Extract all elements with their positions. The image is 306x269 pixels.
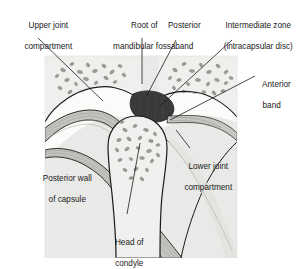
label-posterior-wall-of-capsule: Posterior wall of capsule	[26, 164, 104, 205]
label-anterior-band: Anterior band	[258, 70, 306, 111]
label-head-of-condyle-line1: Head of	[115, 238, 144, 247]
label-lower-joint-compartment-line1: Lower joint	[188, 162, 228, 171]
label-posterior-band: Posterior band	[156, 11, 208, 52]
label-posterior-band-line1: Posterior	[168, 21, 201, 30]
label-intermediate-zone-line1: Intermediate zone	[226, 21, 292, 30]
label-upper-joint-compartment: Upper joint compartment	[4, 11, 88, 52]
label-intermediate-zone: Intermediate zone (intracapsular disc)	[206, 11, 306, 52]
label-lower-joint-compartment: Lower joint compartment	[170, 152, 242, 193]
label-lower-joint-compartment-line2: compartment	[184, 183, 232, 192]
label-upper-joint-compartment-line1: Upper joint	[28, 21, 68, 30]
label-upper-joint-compartment-line2: compartment	[24, 42, 72, 51]
label-posterior-wall-of-capsule-line1: Posterior wall	[43, 174, 92, 183]
label-head-of-condyle-line2: condyle	[115, 259, 143, 268]
label-anterior-band-line1: Anterior	[262, 80, 291, 89]
label-head-of-condyle: Head of condyle	[98, 228, 156, 269]
label-posterior-band-line2: band	[175, 42, 193, 51]
label-root-of-mandibular-fossa-line1: Root of	[131, 21, 157, 30]
label-anterior-band-line2: band	[263, 101, 281, 110]
label-posterior-wall-of-capsule-line2: of capsule	[49, 195, 86, 204]
label-intermediate-zone-line2: (intracapsular disc)	[224, 42, 293, 51]
